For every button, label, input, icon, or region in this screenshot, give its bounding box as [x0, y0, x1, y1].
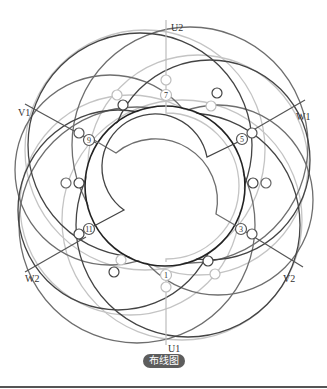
- terminal-u1-label: U1: [168, 343, 180, 354]
- slot-9-marker: 9: [84, 135, 95, 146]
- bottom-divider: [0, 386, 327, 388]
- terminal-w2-label: W2: [25, 273, 39, 284]
- slot-11-marker: 11: [84, 224, 95, 235]
- svg-text:9: 9: [87, 136, 91, 145]
- terminal-v2-label: V2: [283, 273, 295, 284]
- slot-5-marker: 5: [237, 134, 248, 145]
- terminal-u2-label: U2: [171, 22, 183, 33]
- slot-3-marker: 3: [236, 224, 247, 235]
- terminal-w1-label: W1: [296, 111, 310, 122]
- svg-text:7: 7: [164, 91, 168, 100]
- svg-text:5: 5: [240, 135, 244, 144]
- terminal-v1-label: V1: [18, 107, 30, 118]
- slot-1-marker: 1: [161, 270, 172, 281]
- diagram-caption: 布线图: [143, 354, 185, 368]
- svg-text:3: 3: [239, 225, 243, 234]
- svg-text:11: 11: [85, 225, 93, 234]
- svg-text:1: 1: [164, 271, 168, 280]
- winding-diagram: 7 9 5 11 3 1 U2 U1 V1 W1 W2 V2: [0, 0, 327, 389]
- slot-7-marker: 7: [161, 90, 172, 101]
